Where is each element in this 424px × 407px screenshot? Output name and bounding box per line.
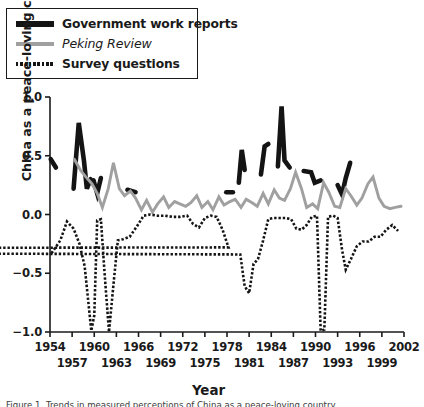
series-segment — [239, 150, 245, 183]
series-segment — [304, 171, 321, 183]
x-tick-label: 1966 — [118, 340, 160, 354]
x-tick-label: 1963 — [95, 356, 137, 370]
x-tick-label: 1993 — [317, 356, 359, 370]
axes-group — [45, 97, 404, 337]
legend-item-peking-review: Peking Review — [16, 34, 152, 54]
x-tick-label: 1990 — [295, 340, 337, 354]
x-tick-label: 1996 — [339, 340, 381, 354]
series-peking-review — [74, 159, 401, 212]
x-tick-label: 1960 — [73, 340, 115, 354]
x-tick-label: 2002 — [383, 340, 424, 354]
series-segment — [51, 159, 56, 167]
series-group — [0, 106, 401, 332]
series-survey-questions — [0, 215, 398, 333]
x-tick-label: 1978 — [206, 340, 248, 354]
x-tick-label: 1984 — [250, 340, 292, 354]
y-tick-label: 0.0 — [8, 208, 42, 222]
series-segment — [278, 106, 290, 167]
y-tick-label: 0.5 — [8, 149, 42, 163]
x-tick-label: 1954 — [29, 340, 71, 354]
y-tick-label: −1.0 — [8, 325, 42, 339]
series-line — [0, 215, 398, 333]
series-line — [74, 159, 401, 212]
x-tick-label: 1975 — [184, 356, 226, 370]
x-tick-label: 1987 — [272, 356, 314, 370]
legend-item-label: Peking Review — [62, 38, 152, 51]
y-tick-label: −0.5 — [8, 266, 42, 280]
series-government-work-reports — [51, 106, 350, 194]
series-segment — [261, 144, 268, 175]
x-tick-label: 1957 — [51, 356, 93, 370]
x-tick-label: 1972 — [162, 340, 204, 354]
x-tick-label: 1969 — [140, 356, 182, 370]
legend-item-label: Survey questions — [62, 58, 180, 70]
x-tick-label: 1981 — [228, 356, 270, 370]
figure-caption: Figure 1. Trends in measured perceptions… — [6, 400, 411, 407]
legend-item-label: Government work reports — [62, 18, 238, 30]
x-axis-title: Year — [0, 383, 417, 398]
legend-item-survey-questions: Survey questions — [16, 54, 180, 74]
legend-item-government-work-reports: Government work reports — [16, 14, 238, 34]
y-tick-label: 1.0 — [8, 90, 42, 104]
x-tick-label: 1999 — [361, 356, 403, 370]
